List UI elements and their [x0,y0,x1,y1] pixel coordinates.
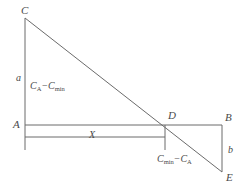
line-diagonal-CE [25,18,222,172]
vertex-label-C: C [21,5,28,16]
expr-bottom-term1-base: C [157,153,164,164]
vertex-label-D: D [168,110,176,121]
dimension-label-a: a [16,73,21,83]
expression-ca-minus-cmin: CA−Cmin [30,81,65,91]
vertex-label-B: B [225,112,232,123]
expr-top-term2-sub: min [55,85,65,92]
expr-top-term1-sub: A [37,85,42,92]
vertex-label-E: E [226,172,233,183]
expr-bottom-term2-sub: A [187,158,192,165]
expr-top-term1-base: C [30,80,37,91]
dimension-label-X: X [89,130,95,140]
vertex-label-A: A [13,119,20,130]
dimension-label-b: b [228,145,233,155]
geometry-figure: C A B D E a b X CA−Cmin Cmin−CA [0,0,247,190]
expression-cmin-minus-ca: Cmin−CA [157,154,192,164]
expr-bottom-term1-sub: min [164,158,174,165]
expr-top-term2-base: C [48,80,55,91]
figure-linework [0,0,247,190]
